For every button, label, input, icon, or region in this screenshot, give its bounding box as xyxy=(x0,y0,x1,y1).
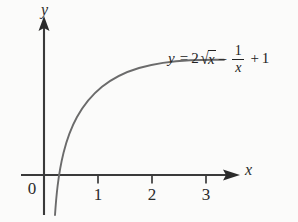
x-axis-ticks xyxy=(98,175,206,184)
fraction-denominator: x xyxy=(232,59,244,75)
equation-radicand: x xyxy=(208,50,216,67)
equation-lhs: y xyxy=(168,51,175,66)
radical-sign: √ xyxy=(200,50,208,67)
x-tick-label-3: 3 xyxy=(196,186,216,203)
x-tick-label-1: 1 xyxy=(88,186,108,203)
equation-plus: + xyxy=(250,51,258,66)
x-axis xyxy=(21,170,240,181)
x-axis-label: x xyxy=(245,162,252,178)
equation-fraction: 1 x xyxy=(232,44,244,75)
equation-annotation: y = 2 √ x – 1 x + 1 xyxy=(168,43,269,74)
y-axis-label: y xyxy=(41,2,48,18)
equation-constant: 1 xyxy=(262,51,270,66)
fraction-numerator: 1 xyxy=(233,44,244,59)
equation-coefficient: 2 xyxy=(191,51,199,66)
equation-minus: – xyxy=(219,51,227,66)
x-tick-label-2: 2 xyxy=(142,186,162,203)
square-root-icon: √ x xyxy=(200,50,216,67)
origin-tick-label: 0 xyxy=(22,180,42,197)
equation-equals: = xyxy=(180,51,188,66)
function-graph-figure: y x 0 1 2 3 y = 2 √ x – 1 x + 1 xyxy=(0,0,298,222)
